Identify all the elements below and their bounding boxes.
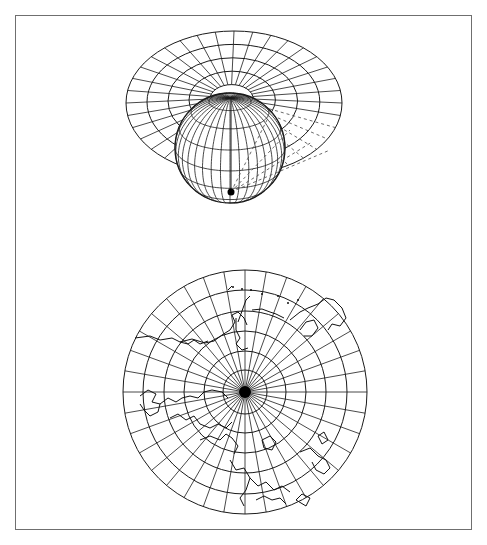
- plane-meridian: [180, 41, 221, 87]
- coastline: [256, 496, 286, 504]
- coastline: [300, 448, 330, 474]
- island-dot: [241, 288, 243, 290]
- coastline: [296, 494, 310, 506]
- coastline: [252, 309, 284, 318]
- projection-point-dot: [228, 189, 235, 196]
- island-dot: [287, 302, 289, 304]
- island-dot: [250, 289, 252, 291]
- north-pole-icon: [239, 386, 251, 398]
- globe-graticule: [175, 93, 285, 203]
- polar-azimuthal-map: [123, 270, 367, 514]
- coastline: [230, 460, 250, 506]
- coastline: [228, 286, 232, 290]
- coastline: [250, 478, 290, 492]
- island-dot: [277, 295, 279, 297]
- coastline: [140, 390, 160, 416]
- island-dot: [297, 299, 299, 301]
- island-dot: [261, 293, 263, 295]
- coastline: [300, 320, 318, 336]
- globe-and-projection-plane: [126, 31, 342, 203]
- plane-meridian: [197, 35, 224, 85]
- island-dot: [232, 286, 234, 288]
- projection-diagram: [0, 0, 487, 545]
- coastline: [318, 432, 328, 444]
